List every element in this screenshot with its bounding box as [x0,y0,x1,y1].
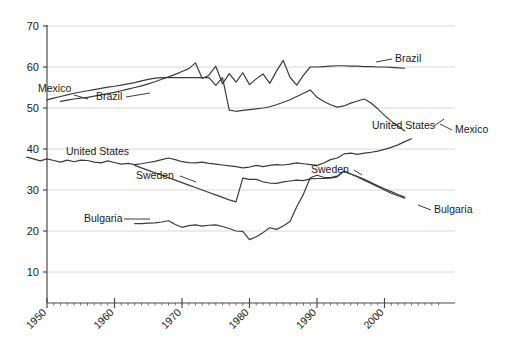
sweden-right-label: Sweden [311,163,349,175]
leader-mexico-right [440,124,452,130]
sweden-left-label: Sweden [136,169,174,181]
y-tick-label-60: 60 [27,61,39,73]
x-tick-label-1960: 1960 [91,306,116,331]
chart-canvas: 10203040506070 195019601970198019902000 … [0,0,506,361]
leader-bulgaria-right [418,205,431,210]
mexico-right-label: Mexico [455,123,488,135]
series-line-sweden [135,165,405,201]
y-axis-tick-labels: 10203040506070 [27,20,39,278]
series-line-mexico [47,78,405,131]
x-tick-label-1970: 1970 [158,306,183,331]
x-axis-tick-labels: 195019601970198019902000 [23,306,386,331]
mexico-left-label: Mexico [38,82,71,94]
y-tick-label-10: 10 [27,266,39,278]
leader-brazil-left [126,93,150,97]
leader-sweden-left [180,176,196,182]
bulgaria-right-label: Bulgaria [434,203,473,215]
x-tick-label-1990: 1990 [293,306,318,331]
line-chart: 10203040506070 195019601970198019902000 … [0,0,506,361]
series-line-bulgaria [135,171,405,239]
leader-brazil-right [376,59,392,62]
united-states-left-label: United States [66,145,129,157]
x-tick-label-2000: 2000 [361,306,386,331]
y-tick-label-30: 30 [27,184,39,196]
y-tick-label-20: 20 [27,225,39,237]
leader-sweden-right [354,170,362,175]
y-tick-label-70: 70 [27,20,39,32]
bulgaria-left-label: Bulgaria [84,212,123,224]
brazil-left-label: Brazil [96,90,122,102]
x-tick-label-1980: 1980 [226,306,251,331]
brazil-right-label: Brazil [395,52,421,64]
series-labels: MexicoBrazilBrazilUnited StatesUnited St… [38,52,488,224]
y-tick-label-40: 40 [27,143,39,155]
x-tick-label-1950: 1950 [23,306,48,331]
y-tick-label-50: 50 [27,102,39,114]
united-states-right-label: United States [372,119,435,131]
